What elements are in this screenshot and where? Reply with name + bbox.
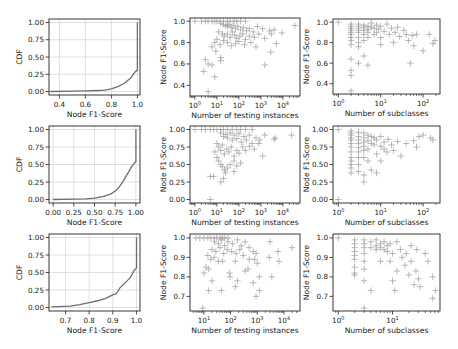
plus-marker bbox=[368, 140, 374, 146]
plus-marker bbox=[213, 48, 219, 54]
plus-marker bbox=[242, 36, 248, 42]
plus-marker bbox=[253, 44, 259, 50]
gridlines bbox=[49, 234, 140, 311]
plus-marker bbox=[200, 305, 206, 311]
plus-marker bbox=[355, 161, 361, 167]
x-tick-label: 0.00 bbox=[45, 208, 61, 217]
plus-marker bbox=[251, 34, 257, 40]
subplot-r1c2: 1001011021031040.40.60.81.0Number of tes… bbox=[159, 17, 300, 120]
plus-marker bbox=[361, 179, 367, 185]
plus-marker bbox=[402, 262, 408, 268]
x-tick-label: 101 bbox=[386, 315, 398, 325]
plus-marker bbox=[249, 126, 255, 132]
plus-marker bbox=[240, 252, 246, 258]
plus-marker bbox=[267, 239, 273, 245]
plus-marker bbox=[396, 33, 402, 39]
x-tick-label: 101 bbox=[375, 207, 387, 217]
x-tick-label: 0.9 bbox=[107, 316, 119, 325]
plus-marker bbox=[432, 287, 438, 293]
plus-marker bbox=[227, 274, 233, 280]
x-tick-label: 0.25 bbox=[66, 208, 82, 217]
figure: 0.40.60.81.00.000.250.500.751.00Node F1-… bbox=[0, 0, 458, 349]
plus-marker bbox=[234, 278, 240, 284]
plus-marker bbox=[218, 287, 224, 293]
gridlines bbox=[49, 126, 140, 203]
plus-marker bbox=[413, 144, 419, 150]
plus-marker bbox=[381, 139, 387, 145]
plus-marker bbox=[365, 158, 371, 164]
x-axis-label: Node F1-Score bbox=[67, 218, 123, 227]
y-tick-label: 1.0 bbox=[317, 18, 329, 27]
y-tick-label: 1.0 bbox=[317, 233, 329, 242]
y-axis-label: Node F1-Score bbox=[302, 136, 311, 192]
y-axis-label: Node F1-Score bbox=[159, 136, 168, 192]
plus-marker bbox=[262, 35, 268, 41]
y-tick-label: 0.75 bbox=[312, 143, 328, 152]
plus-marker bbox=[279, 30, 285, 36]
plus-marker bbox=[378, 158, 384, 164]
plus-marker bbox=[227, 161, 233, 167]
plus-marker bbox=[361, 305, 367, 311]
subplot-r2c2: 1001011021031040.000.250.500.751.00Numbe… bbox=[159, 125, 300, 227]
plus-marker bbox=[256, 31, 262, 37]
y-tick-label: 0.50 bbox=[169, 160, 185, 169]
plus-marker bbox=[365, 34, 371, 40]
subplot-r2c1: 0.000.250.500.751.000.000.250.500.751.00… bbox=[15, 125, 144, 227]
x-tick-label: 100 bbox=[189, 100, 201, 110]
plus-marker bbox=[414, 246, 420, 252]
plus-marker bbox=[361, 250, 367, 256]
plus-marker bbox=[276, 258, 282, 264]
y-tick-label: 1.00 bbox=[28, 233, 44, 242]
plus-marker bbox=[390, 147, 396, 153]
plus-marker bbox=[398, 153, 404, 159]
plus-marker bbox=[192, 18, 198, 24]
plus-marker bbox=[250, 29, 256, 35]
y-tick-label: 0.00 bbox=[28, 87, 44, 96]
plus-marker bbox=[378, 133, 384, 139]
x-axis-label: Number of subclasses bbox=[345, 218, 429, 227]
chart-grid: 0.40.60.81.00.000.250.500.751.00Node F1-… bbox=[0, 0, 458, 349]
plus-marker bbox=[355, 149, 361, 155]
plus-marker bbox=[361, 53, 367, 59]
y-tick-label: 0.00 bbox=[28, 303, 44, 312]
plus-marker bbox=[389, 278, 395, 284]
plus-marker bbox=[234, 237, 240, 243]
plus-marker bbox=[220, 250, 226, 256]
plus-marker bbox=[214, 140, 220, 146]
x-tick-label: 0.8 bbox=[83, 316, 95, 325]
y-tick-label: 0.50 bbox=[312, 160, 328, 169]
plus-marker bbox=[388, 142, 394, 148]
plus-marker bbox=[368, 167, 374, 173]
plus-marker bbox=[212, 149, 218, 155]
plus-marker bbox=[209, 44, 215, 50]
y-tick-label: 1.0 bbox=[174, 233, 186, 242]
plus-marker bbox=[249, 140, 255, 146]
scatter-markers bbox=[193, 235, 295, 312]
plus-marker bbox=[361, 266, 367, 272]
plus-marker bbox=[361, 244, 367, 250]
plus-marker bbox=[392, 287, 398, 293]
plus-marker bbox=[256, 140, 262, 146]
plus-marker bbox=[348, 72, 354, 78]
y-tick-label: 0.7 bbox=[317, 292, 328, 301]
plus-marker bbox=[246, 143, 252, 149]
plus-marker bbox=[271, 27, 277, 33]
plus-marker bbox=[413, 268, 419, 274]
y-axis-label: CDF bbox=[15, 49, 24, 65]
plus-marker bbox=[394, 268, 400, 274]
x-tick-label: 100 bbox=[332, 315, 344, 325]
scatter-markers bbox=[192, 126, 295, 202]
y-axis-label: CDF bbox=[15, 157, 24, 173]
x-axis-label: Node F1-Score bbox=[67, 110, 123, 119]
x-axis-label: Number of testing instances bbox=[191, 326, 299, 335]
axes-frame bbox=[190, 18, 300, 96]
y-tick-label: 1.0 bbox=[174, 17, 186, 26]
plus-marker bbox=[394, 239, 400, 245]
plus-marker bbox=[377, 258, 383, 264]
plus-marker bbox=[348, 149, 354, 155]
plus-marker bbox=[361, 258, 367, 264]
x-tick-label: 103 bbox=[255, 100, 267, 110]
x-tick-label: 100 bbox=[332, 98, 344, 108]
y-tick-label: 0.75 bbox=[28, 251, 44, 260]
plus-marker bbox=[234, 163, 240, 169]
